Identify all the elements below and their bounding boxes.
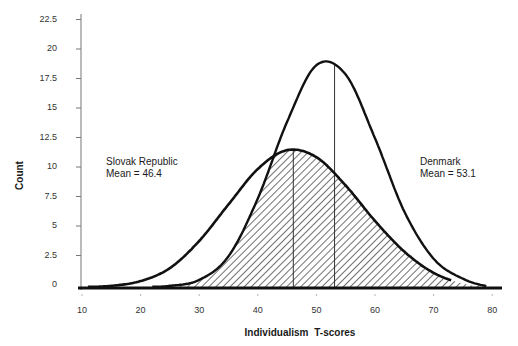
x-tick-label: 50 xyxy=(301,305,331,315)
slovak-mean: Mean = 46.4 xyxy=(106,168,178,180)
y-tick-label: 2.5 xyxy=(17,250,57,260)
x-axis-ticks xyxy=(81,294,493,295)
y-tick-label: 12.5 xyxy=(17,132,57,142)
denmark-annotation: Denmark Mean = 53.1 xyxy=(420,156,476,180)
y-tick-label: 17.5 xyxy=(17,73,57,83)
y-tick-label: 20 xyxy=(17,43,57,53)
slovak-annotation: Slovak Republic Mean = 46.4 xyxy=(106,156,178,180)
y-tick-label: 0 xyxy=(17,279,57,289)
x-tick-label: 40 xyxy=(243,305,273,315)
x-tick-label: 30 xyxy=(184,305,214,315)
x-axis-label: Individualism T-scores xyxy=(200,327,400,338)
denmark-name: Denmark xyxy=(420,156,476,168)
y-axis-label: Count xyxy=(14,151,25,201)
slovak-name: Slovak Republic xyxy=(106,156,178,168)
x-tick-label: 10 xyxy=(67,305,97,315)
x-tick-label: 20 xyxy=(126,305,156,315)
x-tick-label: 70 xyxy=(419,305,449,315)
denmark-mean: Mean = 53.1 xyxy=(420,168,476,180)
x-tick-label: 60 xyxy=(360,305,390,315)
y-tick-label: 5 xyxy=(17,220,57,230)
y-axis xyxy=(76,14,81,290)
x-tick-label: 80 xyxy=(477,305,507,315)
y-tick-label: 22.5 xyxy=(17,14,57,24)
y-tick-label: 15 xyxy=(17,102,57,112)
